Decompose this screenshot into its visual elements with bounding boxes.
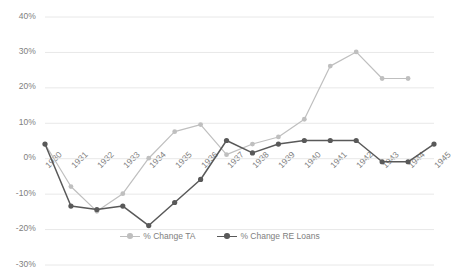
series-line-0 [43,50,411,214]
data-point[interactable] [302,117,307,122]
chart-legend: % Change TA % Change RE Loans [0,231,440,241]
legend-item-series-0[interactable]: % Change TA [120,231,195,241]
data-point[interactable] [328,64,333,69]
data-point[interactable] [120,203,125,208]
data-point[interactable] [276,141,281,146]
data-point[interactable] [380,76,385,81]
data-point[interactable] [42,141,47,146]
data-point[interactable] [198,122,203,127]
data-point[interactable] [68,203,73,208]
legend-item-series-1[interactable]: % Change RE Loans [217,231,319,241]
series-line-1 [42,138,436,228]
data-point[interactable] [224,152,229,157]
data-point[interactable] [380,159,385,164]
data-point[interactable] [354,138,359,143]
data-point[interactable] [302,138,307,143]
data-point[interactable] [250,150,255,155]
legend-swatch-line-marker-icon [120,232,140,240]
data-point[interactable] [146,156,151,161]
data-point[interactable] [354,50,359,55]
data-point[interactable] [172,200,177,205]
data-point[interactable] [198,177,203,182]
legend-swatch-line-marker-icon [217,232,237,240]
legend-label-series-0: % Change TA [143,231,195,241]
data-point[interactable] [276,135,281,140]
data-point[interactable] [120,191,125,196]
data-point[interactable] [224,138,229,143]
data-point[interactable] [69,184,74,189]
data-point[interactable] [146,223,151,228]
data-point[interactable] [431,141,436,146]
data-point[interactable] [250,142,255,147]
data-point[interactable] [172,129,177,134]
data-point[interactable] [94,207,99,212]
data-point[interactable] [328,138,333,143]
data-point[interactable] [406,76,411,81]
data-point[interactable] [405,159,410,164]
legend-label-series-1: % Change RE Loans [240,231,319,241]
